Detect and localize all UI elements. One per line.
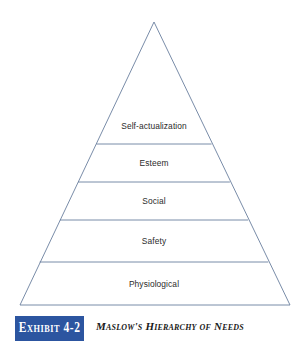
tier-label-safety: Safety	[0, 237, 308, 245]
exhibit-title: Maslow's Hierarchy of Needs	[96, 321, 244, 332]
tier-label-social: Social	[0, 197, 308, 205]
exhibit-caption: Exhibit 4-2 Maslow's Hierarchy of Needs	[0, 314, 308, 344]
exhibit-number-badge: Exhibit 4-2	[15, 316, 84, 341]
tier-label-physiological: Physiological	[0, 280, 308, 288]
tier-label-self-actualization: Self-actualization	[0, 122, 308, 130]
pyramid-diagram	[0, 0, 308, 359]
maslow-hierarchy-figure: Self-actualization Esteem Social Safety …	[0, 0, 308, 359]
exhibit-number-label: Exhibit 4-2	[19, 322, 81, 336]
tier-label-esteem: Esteem	[0, 159, 308, 167]
